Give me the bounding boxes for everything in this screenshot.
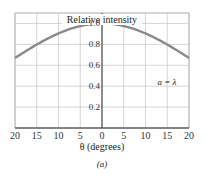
x-tick-label: 15 — [32, 130, 42, 141]
y-tick-label: 0.4 — [89, 81, 101, 91]
x-tick-labels: 201510505101520 — [10, 130, 194, 141]
diffraction-chart: Relative intensity 0.20.40.60.81.0 20151… — [0, 0, 206, 178]
chart-title: Relative intensity — [67, 14, 137, 25]
x-axis-label: θ (degrees) — [80, 141, 125, 153]
y-tick-label: 0.8 — [89, 39, 101, 49]
slit-width-annotation: a = λ — [158, 77, 177, 87]
y-tick-label: 0.2 — [89, 102, 100, 112]
x-tick-label: 10 — [54, 130, 64, 141]
x-tick-label: 0 — [100, 130, 105, 141]
y-tick-label: 0.6 — [89, 60, 101, 70]
x-tick-label: 5 — [78, 130, 83, 141]
x-tick-label: 5 — [121, 130, 126, 141]
plot-area — [15, 13, 189, 128]
x-tick-label: 20 — [10, 130, 20, 141]
x-tick-label: 10 — [141, 130, 151, 141]
figure-caption: (a) — [97, 159, 108, 169]
x-tick-label: 15 — [162, 130, 172, 141]
y-tick-label: 1.0 — [89, 18, 101, 28]
x-tick-label: 20 — [184, 130, 194, 141]
